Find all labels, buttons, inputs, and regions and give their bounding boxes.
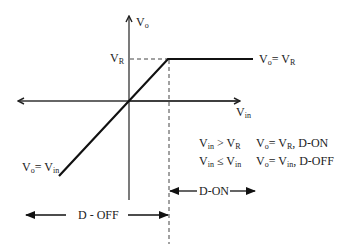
condition-row-off: Vin ≤ Vin xyxy=(199,155,241,169)
d-off-region-label: D - OFF xyxy=(78,209,119,221)
result-row-on: Vo= VR, D-ON xyxy=(256,137,328,151)
condition-row-on: Vin > VR xyxy=(199,137,240,151)
d-on-region-label: D-ON xyxy=(199,185,229,197)
lower-segment-label: Vo= Vin xyxy=(22,161,59,175)
transfer-characteristic-diagram xyxy=(0,0,348,248)
vr-tick-label: VR xyxy=(110,52,124,66)
x-axis-label: Vin xyxy=(236,106,251,120)
upper-segment-label: Vo= VR xyxy=(259,53,295,67)
y-axis-label: Vo xyxy=(136,16,149,30)
result-row-off: Vo= Vin, D-OFF xyxy=(256,155,334,169)
